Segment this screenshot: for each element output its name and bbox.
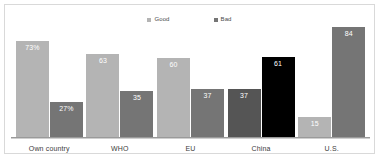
bar-group: 6335 (85, 23, 156, 137)
chart-container: Good Bad 73%27%6335603737611584 Own coun… (4, 4, 375, 154)
bar-value-label: 35 (120, 94, 153, 102)
legend-label-bad: Bad (221, 16, 232, 23)
bar-value-label: 27% (50, 105, 83, 113)
bar-bad[interactable]: 37 (191, 89, 224, 137)
bar-bad[interactable]: 27% (50, 102, 83, 137)
bar-group: 73%27% (14, 23, 85, 137)
bar-value-label: 63 (86, 57, 119, 65)
x-axis-baseline-shadow (11, 138, 370, 139)
bar-good[interactable]: 73% (16, 41, 49, 137)
bar-bad[interactable]: 61 (262, 57, 295, 137)
bar-good[interactable]: 63 (86, 54, 119, 137)
category-label: WHO (85, 144, 156, 153)
category-label: U.S. (296, 144, 367, 153)
bar-bad[interactable]: 84 (332, 27, 365, 137)
bar-value-label: 37 (191, 92, 224, 100)
category-label: Own country (14, 144, 85, 153)
bar-good[interactable]: 60 (157, 58, 190, 137)
bar-good[interactable]: 37 (228, 89, 261, 137)
legend-swatch-good-icon (147, 18, 151, 22)
category-label: EU (155, 144, 226, 153)
bar-value-label: 37 (228, 92, 261, 100)
plot-area: 73%27%6335603737611584 (14, 23, 367, 137)
bar-value-label: 61 (262, 60, 295, 68)
bar-good[interactable]: 15 (298, 117, 331, 137)
chart-legend: Good Bad (5, 16, 374, 23)
bar-value-label: 60 (157, 61, 190, 69)
legend-item-bad[interactable]: Bad (214, 16, 232, 23)
bar-value-label: 73% (16, 44, 49, 52)
bar-value-label: 15 (298, 120, 331, 128)
legend-label-good: Good (154, 16, 169, 23)
bar-group: 1584 (296, 23, 367, 137)
bar-group: 3761 (226, 23, 297, 137)
category-label-row: Own countryWHOEUChinaU.S. (14, 141, 367, 157)
bar-group: 6037 (155, 23, 226, 137)
bar-bad[interactable]: 35 (120, 91, 153, 137)
legend-swatch-bad-icon (214, 18, 218, 22)
bar-value-label: 84 (332, 30, 365, 38)
legend-item-good[interactable]: Good (147, 16, 169, 23)
category-label: China (226, 144, 297, 153)
